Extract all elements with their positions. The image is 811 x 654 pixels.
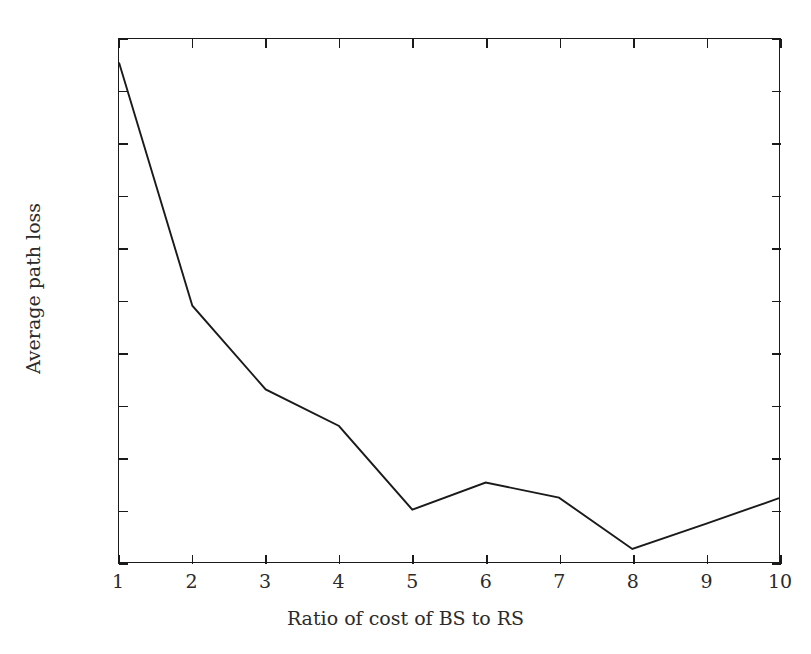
x-axis-tick-label: 2 [186,572,198,591]
x-axis-tick [707,555,709,564]
x-axis-tick [486,39,488,48]
x-axis-tick-label: 5 [406,572,418,591]
x-axis-tick [339,555,341,564]
x-axis-tick-labels: 12345678910 [0,572,811,602]
x-axis-tick-label: 7 [553,572,565,591]
x-axis-tick-label: 1 [112,572,124,591]
x-axis-tick [118,555,120,564]
x-axis-tick-label: 10 [768,572,792,591]
x-axis-tick [339,39,341,48]
x-axis-tick [780,39,782,48]
y-axis-tick [119,143,128,145]
x-axis-tick [192,555,194,564]
y-axis-tick-labels: 179.7179.8179.9180180.1180.2180.3180.418… [0,0,110,654]
x-axis-tick-label: 9 [700,572,712,591]
y-axis-tick [119,563,128,565]
x-axis-tick-label: 6 [480,572,492,591]
line-series-average-path-loss [119,39,779,562]
y-axis-tick [772,196,781,198]
plot-area [118,38,780,563]
figure-container: 179.7179.8179.9180180.1180.2180.3180.418… [0,0,811,654]
y-axis-tick [772,406,781,408]
x-axis-tick [780,555,782,564]
y-axis-tick [119,248,128,250]
y-axis-tick [119,406,128,408]
y-axis-tick [772,248,781,250]
x-axis-tick [412,39,414,48]
x-axis-tick [412,555,414,564]
y-axis-tick [119,91,128,93]
x-axis-tick [560,555,562,564]
x-axis-tick-label: 8 [627,572,639,591]
y-axis-tick [119,38,128,40]
x-axis-tick-label: 3 [259,572,271,591]
y-axis-tick [119,301,128,303]
y-axis-tick [772,143,781,145]
x-axis-tick [486,555,488,564]
x-axis-tick [633,39,635,48]
y-axis-tick [772,91,781,93]
x-axis-tick [192,39,194,48]
y-axis-title: Average path loss [24,159,43,419]
y-axis-tick [119,353,128,355]
y-axis-tick [119,458,128,460]
series-polyline [119,63,779,549]
x-axis-tick [265,555,267,564]
y-axis-tick [119,196,128,198]
x-axis-tick [265,39,267,48]
x-axis-tick-label: 4 [333,572,345,591]
x-axis-tick [633,555,635,564]
y-axis-tick [772,511,781,513]
y-axis-tick [772,353,781,355]
y-axis-tick [772,458,781,460]
x-axis-tick [560,39,562,48]
y-axis-tick [772,301,781,303]
x-axis-title: Ratio of cost of BS to RS [0,609,811,628]
y-axis-tick [119,511,128,513]
x-axis-tick [707,39,709,48]
x-axis-tick [118,39,120,48]
